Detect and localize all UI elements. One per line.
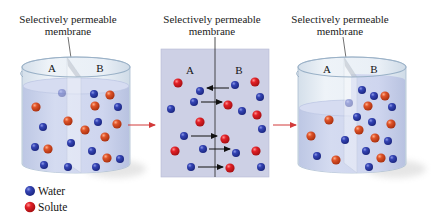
solute-molecule [306,131,315,140]
osmosis-diagram: Selectively permeable membrane A B Selec… [0,0,443,224]
water-molecule [180,132,188,140]
water-molecule [341,136,349,144]
solute-molecule [250,77,259,86]
solute-molecule [170,146,179,155]
solute-molecule [324,115,333,124]
solute-molecule [112,119,121,128]
water-molecule [187,163,195,171]
water-molecule [67,139,75,147]
water-molecule [40,161,48,169]
solute-molecule [386,119,395,128]
membrane-label-line2: membrane [317,25,364,37]
water-molecule [389,155,397,163]
side-a-label: A [323,63,331,75]
solute-molecule [63,116,72,125]
solute-molecule [80,125,89,134]
legend-item-water: Water [25,185,65,197]
legend-label: Solute [38,201,67,213]
water-molecule [353,113,361,121]
solute-molecule [225,163,234,172]
membrane-closeup-panel: Selectively permeable membrane A B [161,13,269,177]
solute-molecule [331,155,340,164]
water-molecule [39,123,47,131]
water-molecule [358,86,366,94]
solute-molecule [195,117,204,126]
membrane-label-line2: membrane [189,25,236,37]
solute-molecule-icon [25,202,36,213]
side-a-label: A [186,64,194,76]
solute-molecule [363,101,372,110]
solute-molecule [173,78,182,87]
water-molecule [114,103,122,111]
solute-molecule [223,100,232,109]
solute-molecule [370,133,379,142]
water-molecule [365,163,373,171]
water-molecule [231,81,239,89]
water-molecule [388,103,396,111]
water-molecule [90,90,98,98]
solute-molecule [100,132,109,141]
water-molecule [167,105,175,113]
final-beaker-panel: Selectively permeable membrane A B [291,13,426,178]
water-molecule [345,99,353,107]
solute-molecule [376,153,385,162]
side-b-label: B [370,63,377,75]
water-molecule [368,118,376,126]
water-molecule [58,89,66,97]
solute-molecule [90,101,99,110]
membrane-leader-line [68,37,71,58]
legend-item-solute: Solute [25,201,68,213]
water-molecule [257,163,265,171]
legend: Water Solute [25,185,68,213]
legend-label: Water [38,185,65,197]
water-molecule [31,143,39,151]
water-molecule [88,147,96,155]
side-b-label: B [96,62,103,74]
membrane-label-line1: Selectively permeable [19,13,117,25]
water-molecule [232,149,240,157]
membrane-label-line1: Selectively permeable [291,13,389,25]
water-molecule [384,137,392,145]
solute-molecule [380,91,389,100]
water-molecule [256,93,264,101]
solute-molecule [220,134,229,143]
side-b-label: B [235,64,242,76]
membrane-label-line2: membrane [45,25,92,37]
water-molecule [190,98,198,106]
water-molecule [258,125,266,133]
solute-molecule [252,110,261,119]
membrane-leader-line [343,37,346,58]
side-a-label: A [48,62,56,74]
water-molecule [116,155,124,163]
membrane-label-line1: Selectively permeable [163,13,261,25]
water-molecule [196,87,204,95]
initial-beaker-panel: Selectively permeable membrane A B [19,13,146,178]
solute-molecule [251,146,260,155]
water-molecule [313,152,321,160]
solute-molecule [105,90,114,99]
water-molecule [370,92,378,100]
water-molecule [92,163,100,171]
water-molecule-icon [25,186,35,196]
water-molecule [238,107,246,115]
water-molecule [199,145,207,153]
solute-molecule [354,125,363,134]
solute-molecule [102,153,111,162]
solute-molecule [43,144,52,153]
water-molecule [362,147,370,155]
solute-molecule [31,102,40,111]
water-molecule [64,163,72,171]
water-molecule [94,118,102,126]
